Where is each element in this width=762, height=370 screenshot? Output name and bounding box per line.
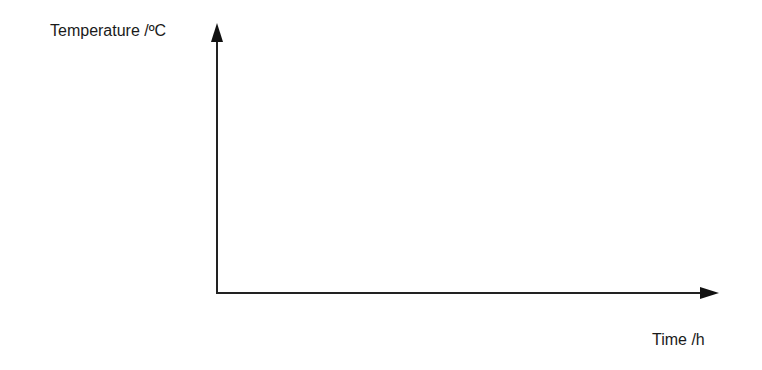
y-axis-label: Temperature /ºC	[50, 22, 166, 40]
x-axis-arrowhead-icon	[700, 287, 719, 299]
x-axis	[216, 287, 719, 299]
x-axis-label: Time /h	[652, 331, 705, 349]
y-axis	[211, 23, 223, 293]
y-axis-arrowhead-icon	[211, 23, 223, 42]
axes-diagram	[0, 0, 762, 370]
